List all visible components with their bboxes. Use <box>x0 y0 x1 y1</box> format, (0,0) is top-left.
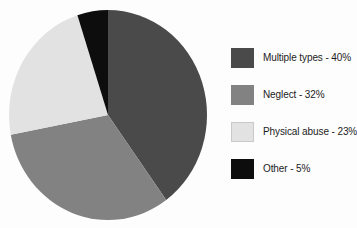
legend-item-multiple-types[interactable]: Multiple types - 40% <box>231 48 357 68</box>
pie-svg <box>0 0 228 228</box>
legend-item-neglect[interactable]: Neglect - 32% <box>231 85 357 105</box>
legend-item-other[interactable]: Other - 5% <box>231 159 357 179</box>
legend-swatch-physical-abuse <box>231 122 254 142</box>
legend-label-multiple-types: Multiple types - 40% <box>263 52 351 64</box>
pie-chart-graphic <box>0 0 228 228</box>
legend-label-neglect: Neglect - 32% <box>263 89 325 101</box>
pie-chart-figure: Multiple types - 40% Neglect - 32% Physi… <box>0 0 357 228</box>
chart-legend: Multiple types - 40% Neglect - 32% Physi… <box>231 48 357 196</box>
legend-swatch-other <box>231 159 254 179</box>
legend-swatch-neglect <box>231 85 254 105</box>
legend-label-other: Other - 5% <box>263 163 310 175</box>
legend-item-physical-abuse[interactable]: Physical abuse - 23% <box>231 122 357 142</box>
legend-label-physical-abuse: Physical abuse - 23% <box>263 126 357 138</box>
legend-swatch-multiple-types <box>231 48 254 68</box>
